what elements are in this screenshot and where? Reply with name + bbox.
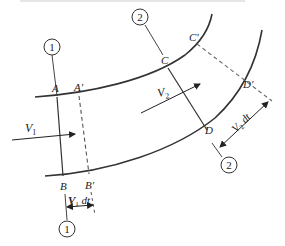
upper-wall-curve [35, 14, 212, 97]
label-D-prime: D' [242, 78, 254, 90]
svg-text:1: 1 [49, 41, 55, 53]
section-2-line-CD [168, 68, 207, 130]
section-1-bottom-marker: 1 [59, 221, 75, 237]
svg-text:2: 2 [226, 159, 232, 171]
label-v1dt: V1 dt [68, 194, 91, 208]
label-C: C [161, 54, 169, 66]
section-2-bottom-marker: 2 [221, 157, 237, 173]
label-v1: V1 [25, 121, 36, 137]
label-D: D [204, 124, 213, 136]
svg-text:1: 1 [64, 223, 70, 235]
section-2-leader-top [145, 25, 163, 55]
section-2-displaced-line [197, 44, 272, 101]
velocity-v1-arrow [12, 134, 75, 140]
section-2-leader-bottom [212, 143, 222, 157]
label-A: A [51, 82, 59, 94]
section-2-top-marker: 2 [132, 9, 148, 25]
section-1-displaced-extension [91, 192, 95, 215]
label-B-prime: B' [85, 179, 95, 191]
velocity-v2-arrow [141, 84, 200, 113]
section-1-displaced-line [79, 96, 89, 174]
svg-text:2: 2 [137, 11, 143, 23]
label-A-prime: A' [73, 81, 84, 93]
label-v2: V2 [156, 84, 170, 102]
section-1-leader-bottom [65, 194, 67, 220]
section-1-line-AB [57, 97, 63, 176]
label-v2dt: V2 dt [229, 110, 255, 136]
lower-wall-curve [45, 30, 262, 176]
section-1-top-marker: 1 [44, 39, 60, 55]
label-C-prime: C' [189, 31, 199, 43]
label-B: B [60, 180, 67, 192]
control-volume-diagram: 1 1 2 2 A A' B B' C C' D D' V1 V2 V1 dt … [0, 0, 285, 246]
